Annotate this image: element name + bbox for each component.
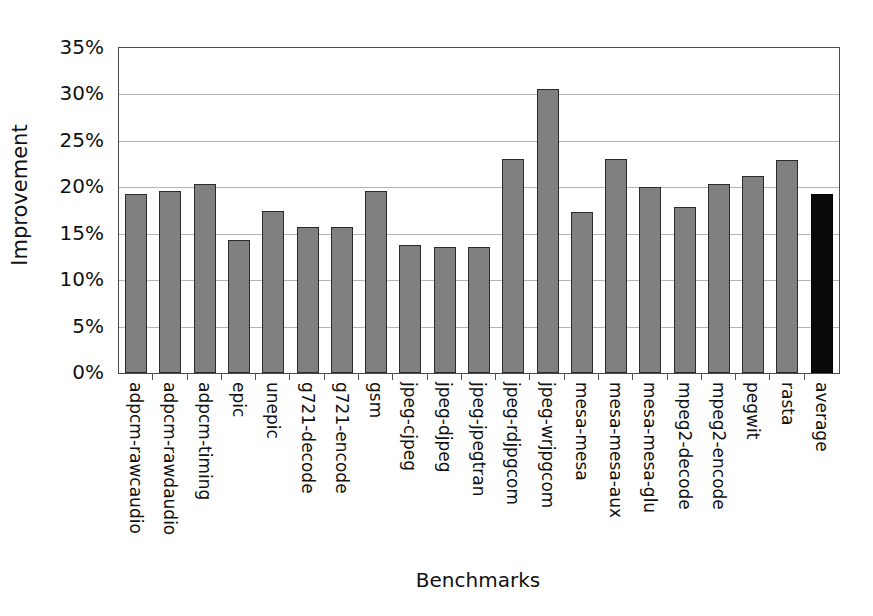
y-axis-tick-labels: 35%30%25%20%15%10%5%0% (42, 36, 110, 384)
y-axis-tick-label: 0% (42, 361, 104, 383)
x-axis-label-slot: g721-encode (324, 382, 358, 557)
bar-epic[interactable] (228, 240, 250, 373)
bar-average[interactable] (811, 194, 833, 373)
x-axis-label-g721-decode: g721-decode (298, 382, 315, 494)
bar-g721-decode[interactable] (297, 227, 319, 373)
bar-jpeg-rdjpgcom[interactable] (502, 159, 524, 373)
x-axis-label-slot: jpeg-wrjpgcom (529, 382, 563, 557)
bar-g721-encode[interactable] (331, 227, 353, 373)
bar-mpeg2-decode[interactable] (674, 207, 696, 373)
bar-slot (428, 48, 462, 373)
bar-slot (188, 48, 222, 373)
x-axis-label-slot: mesa-mesa-glu (632, 382, 666, 557)
y-axis-tick-label: 10% (42, 268, 104, 290)
x-axis-tick (289, 373, 290, 380)
bar-slot (805, 48, 839, 373)
x-axis-tick (392, 373, 393, 380)
x-axis-tick (735, 373, 736, 380)
x-axis-label-slot: mpeg2-decode (667, 382, 701, 557)
bar-slot (770, 48, 804, 373)
bar-adpcm-rawdaudio[interactable] (159, 191, 181, 373)
bar-slot (633, 48, 667, 373)
x-axis-label-unepic: unepic (264, 382, 281, 439)
bar-slot (290, 48, 324, 373)
x-axis-label-slot: unepic (255, 382, 289, 557)
bar-slot (702, 48, 736, 373)
bar-jpeg-djpeg[interactable] (434, 247, 456, 373)
bar-slot (462, 48, 496, 373)
bar-jpeg-cjpeg[interactable] (399, 245, 421, 373)
x-axis-label-slot: gsm (358, 382, 392, 557)
bar-jpeg-jpegtran[interactable] (468, 247, 490, 373)
x-axis-label-jpeg-wrjpgcom: jpeg-wrjpgcom (538, 382, 555, 508)
bar-rasta[interactable] (776, 160, 798, 373)
x-axis-label-slot: mpeg2-encode (701, 382, 735, 557)
bar-adpcm-timing[interactable] (194, 184, 216, 373)
y-axis-tick-label: 5% (42, 315, 104, 337)
x-axis-title: Benchmarks (118, 568, 838, 592)
bar-mesa-mesa-aux[interactable] (605, 159, 627, 374)
x-axis-label-adpcm-rawdaudio: adpcm-rawdaudio (161, 382, 178, 535)
x-axis-tick (152, 373, 153, 380)
x-axis-tick (632, 373, 633, 380)
bar-gsm[interactable] (365, 191, 387, 373)
x-axis-label-average: average (812, 382, 829, 452)
x-axis-label-slot: jpeg-cjpeg (392, 382, 426, 557)
x-axis-label-adpcm-timing: adpcm-timing (195, 382, 212, 500)
x-axis-label-mpeg2-encode: mpeg2-encode (709, 382, 726, 510)
x-axis-tick (804, 373, 805, 380)
x-axis-label-slot: average (804, 382, 838, 557)
bar-slot (393, 48, 427, 373)
x-axis-label-slot: epic (221, 382, 255, 557)
bar-mesa-mesa-glu[interactable] (639, 187, 661, 373)
x-axis-label-slot: adpcm-timing (187, 382, 221, 557)
bar-adpcm-rawcaudio[interactable] (125, 194, 147, 373)
y-axis-title: Improvement (0, 0, 40, 390)
x-axis-tick (187, 373, 188, 380)
x-axis-label-adpcm-rawcaudio: adpcm-rawcaudio (127, 382, 144, 534)
bar-unepic[interactable] (262, 211, 284, 373)
x-axis-label-mesa-mesa-aux: mesa-mesa-aux (607, 382, 624, 518)
y-axis-tick-label: 15% (42, 222, 104, 244)
bar-slot (565, 48, 599, 373)
x-axis-tick (529, 373, 530, 380)
x-axis-label-slot: pegwit (735, 382, 769, 557)
y-axis-title-label: Improvement (8, 124, 32, 265)
bar-jpeg-wrjpgcom[interactable] (537, 89, 559, 373)
x-axis-label-g721-encode: g721-encode (332, 382, 349, 494)
x-axis-label-gsm: gsm (367, 382, 384, 418)
x-axis-label-slot: jpeg-rdjpgcom (495, 382, 529, 557)
bar-slot (736, 48, 770, 373)
x-axis-label-jpeg-cjpeg: jpeg-cjpeg (401, 382, 418, 471)
bar-pegwit[interactable] (742, 176, 764, 373)
x-axis-label-slot: adpcm-rawcaudio (118, 382, 152, 557)
bar-slot (668, 48, 702, 373)
x-axis-label-slot: adpcm-rawdaudio (152, 382, 186, 557)
bar-mpeg2-encode[interactable] (708, 184, 730, 373)
x-axis-label-jpeg-jpegtran: jpeg-jpegtran (469, 382, 486, 497)
bar-slot (325, 48, 359, 373)
x-axis-label-slot: jpeg-jpegtran (461, 382, 495, 557)
x-axis-tick (667, 373, 668, 380)
x-axis-tick (701, 373, 702, 380)
y-axis-tick-label: 30% (42, 82, 104, 104)
x-axis-tick (564, 373, 565, 380)
x-axis-label-slot: mesa-mesa-aux (598, 382, 632, 557)
x-axis-category-labels: adpcm-rawcaudioadpcm-rawdaudioadpcm-timi… (118, 382, 838, 557)
bar-slot (153, 48, 187, 373)
bar-mesa-mesa[interactable] (571, 212, 593, 373)
x-axis-tick (461, 373, 462, 380)
x-axis-tick (358, 373, 359, 380)
x-axis-label-slot: mesa-mesa (564, 382, 598, 557)
x-axis-tick (324, 373, 325, 380)
x-axis-label-slot: jpeg-djpeg (427, 382, 461, 557)
x-axis-ticks (118, 373, 838, 380)
x-axis-tick (495, 373, 496, 380)
bar-slot (256, 48, 290, 373)
x-axis-label-slot: rasta (769, 382, 803, 557)
bar-slot (496, 48, 530, 373)
x-axis-label-pegwit: pegwit (744, 382, 761, 439)
bar-slot (359, 48, 393, 373)
x-axis-label-slot: g721-decode (289, 382, 323, 557)
x-axis-label-rasta: rasta (778, 382, 795, 425)
